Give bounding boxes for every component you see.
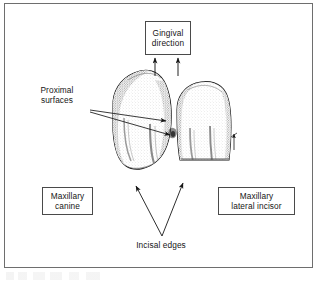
label-proximal-line2: surfaces <box>27 95 87 105</box>
scan-artifact <box>6 272 100 280</box>
label-incisal-line1: Incisal edges <box>110 240 212 250</box>
gingival-direction-arrows <box>155 58 178 76</box>
callout-gingival-line1: Gingival <box>153 28 184 38</box>
label-proximal-surfaces: Proximal surfaces <box>27 85 87 106</box>
proximal-contact-point <box>168 128 176 138</box>
maxillary-canine-drawing <box>113 70 171 169</box>
label-incisal-edges: Incisal edges <box>110 240 212 250</box>
callout-incisor-line1: Maxillary <box>240 191 274 201</box>
callout-gingival-line2: direction <box>152 38 184 48</box>
callout-gingival-direction: Gingival direction <box>145 21 191 55</box>
canine-shading <box>113 70 171 169</box>
contact-marker-arrow <box>231 133 237 150</box>
incisal-edge-leaders <box>136 183 183 236</box>
callout-maxillary-canine: Maxillary canine <box>42 187 93 215</box>
incisor-shading <box>177 81 231 161</box>
callout-canine-line1: Maxillary <box>51 191 85 201</box>
label-proximal-line1: Proximal <box>27 85 87 95</box>
callout-incisor-line2: lateral incisor <box>231 201 281 211</box>
maxillary-lateral-incisor-drawing <box>177 81 231 161</box>
figure-root: Gingival direction Maxillary canine Maxi… <box>0 0 321 286</box>
callout-maxillary-lateral-incisor: Maxillary lateral incisor <box>218 187 295 215</box>
callout-canine-line2: canine <box>55 201 80 211</box>
incisal-arrow-right <box>162 183 183 236</box>
incisal-arrow-left <box>136 186 162 236</box>
